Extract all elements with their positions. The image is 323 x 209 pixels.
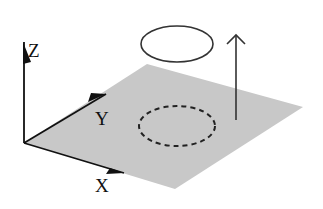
plane xyxy=(24,64,303,189)
y-axis-label: Y xyxy=(95,108,109,129)
solid-ellipse-above xyxy=(141,26,213,62)
z-axis-label: Z xyxy=(28,40,40,61)
diagram-canvas: Z Y X xyxy=(0,0,323,209)
x-axis-label: X xyxy=(95,175,109,196)
